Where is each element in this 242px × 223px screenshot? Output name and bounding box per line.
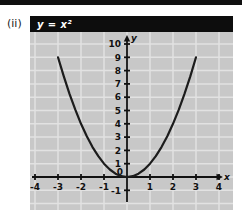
figure-label: (ii) — [7, 17, 22, 31]
y-tick-label: 4 — [115, 119, 121, 129]
x-axis-label: x — [223, 172, 231, 182]
y-tick-label: 6 — [115, 92, 121, 102]
x-tick-label: 4 — [216, 182, 222, 192]
x-tick-label: 3 — [193, 182, 199, 192]
x-tick-label: -4 — [30, 182, 40, 192]
x-tick-label: -2 — [76, 182, 86, 192]
plot-area: -4-3-2-11234-1012345678910xy — [30, 32, 233, 210]
graph-canvas: -4-3-2-11234-1012345678910xy — [30, 32, 233, 210]
top-border-strip — [0, 0, 242, 5]
x-tick-label: -3 — [53, 182, 63, 192]
graph-title-bar: y = x² — [30, 16, 233, 32]
graph-title: y = x² — [37, 19, 72, 30]
y-axis-arrow — [124, 35, 130, 42]
y-tick-label: 8 — [115, 66, 121, 76]
y-tick-label: 5 — [115, 106, 121, 116]
y-tick-label: 1 — [115, 159, 121, 169]
y-tick-label: 10 — [108, 39, 121, 49]
x-tick-label: 2 — [170, 182, 176, 192]
graph-panel: y = x² -4-3-2-11234-1012345678910xy — [30, 16, 233, 210]
y-tick-label: 2 — [115, 146, 121, 156]
y-tick-label: 7 — [115, 79, 121, 89]
x-tick-label: -1 — [99, 182, 109, 192]
page: (ii) y = x² -4-3-2-11234-1012345678910xy — [0, 0, 242, 223]
x-tick-label: 1 — [147, 182, 153, 192]
y-tick-label: 3 — [115, 132, 121, 142]
y-tick-label: -1 — [111, 186, 121, 196]
y-tick-label: 9 — [115, 53, 121, 63]
y-axis-label: y — [131, 33, 138, 43]
